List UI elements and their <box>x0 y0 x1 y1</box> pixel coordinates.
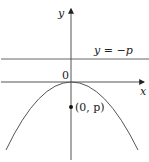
focus-label: (0, p) <box>75 101 105 114</box>
origin-label: 0 <box>62 69 69 82</box>
parabola-curve <box>6 82 138 150</box>
parabola-diagram: y x 0 y = −p (0, p) <box>0 0 149 162</box>
y-axis-label: y <box>57 7 65 20</box>
focus-point <box>69 105 73 109</box>
x-axis-label: x <box>140 85 147 98</box>
directrix-label: y = −p <box>93 44 133 57</box>
